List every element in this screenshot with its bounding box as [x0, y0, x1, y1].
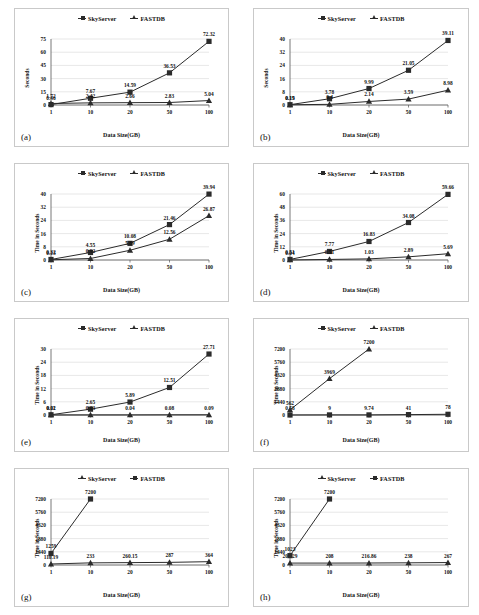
x-axis-title: Data Size(GB)	[15, 287, 228, 293]
svg-text:0: 0	[282, 257, 285, 263]
svg-text:1: 1	[50, 419, 53, 425]
figure-grid: SkyServerFASTDBSecondsData Size(GB)(a)01…	[0, 0, 479, 615]
svg-text:238: 238	[404, 553, 412, 559]
triangle-marker-icon	[78, 478, 86, 479]
svg-text:24: 24	[280, 231, 286, 237]
legend-item-skyserver: SkyServer	[318, 170, 356, 177]
svg-text:60: 60	[41, 49, 47, 55]
panel-frame: SkyServerFASTDBTime in SecondsData Size(…	[14, 468, 229, 607]
panel-frame: SkyServerFASTDBTime in SecondsData Size(…	[253, 163, 469, 302]
svg-text:48: 48	[280, 204, 286, 210]
svg-text:36: 36	[280, 217, 286, 223]
chart-legend: SkyServerFASTDB	[15, 475, 228, 482]
svg-text:50: 50	[167, 264, 173, 270]
legend-item-skyserver: SkyServer	[78, 15, 116, 22]
legend-label: FASTDB	[380, 325, 405, 332]
svg-text:1.03: 1.03	[364, 249, 374, 255]
svg-text:7200: 7200	[324, 489, 335, 495]
legend-label: SkyServer	[88, 475, 116, 482]
svg-text:260.15: 260.15	[123, 553, 138, 559]
svg-text:10: 10	[327, 109, 333, 115]
panel-frame: SkyServerFASTDBTime in SecondsData Size(…	[14, 318, 229, 452]
svg-text:50: 50	[406, 419, 412, 425]
svg-text:0: 0	[43, 102, 46, 108]
panel-tag: (b)	[260, 132, 271, 142]
chart-panel-f: SkyServerFASTDBTime in SecondsData Size(…	[239, 310, 479, 460]
legend-label: FASTDB	[380, 170, 405, 177]
panel-frame: SkyServerFASTDBTime in SecondsData Size(…	[253, 468, 469, 607]
legend-label: SkyServer	[88, 15, 116, 22]
svg-text:14.59: 14.59	[124, 82, 136, 88]
svg-text:233: 233	[86, 553, 94, 559]
svg-text:267: 267	[444, 553, 452, 559]
panel-frame: SkyServerFASTDBTime in SecondsData Size(…	[14, 163, 229, 302]
svg-text:20: 20	[366, 569, 372, 575]
svg-text:32: 32	[41, 204, 47, 210]
svg-text:5.04: 5.04	[204, 91, 214, 97]
svg-text:2.14: 2.14	[364, 91, 374, 97]
legend-label: FASTDB	[140, 475, 165, 482]
x-axis-title: Data Size(GB)	[254, 592, 468, 598]
svg-text:5760: 5760	[274, 509, 285, 515]
svg-text:20: 20	[127, 569, 133, 575]
svg-text:1: 1	[289, 264, 292, 270]
plot-area: 081624324011020501000.193.789.9921.0539.…	[256, 23, 456, 127]
legend-label: SkyServer	[328, 15, 356, 22]
svg-text:0: 0	[282, 102, 285, 108]
svg-text:1.72: 1.72	[46, 93, 56, 99]
legend-label: FASTDB	[140, 325, 165, 332]
svg-text:2.89: 2.89	[404, 247, 414, 253]
svg-text:60: 60	[280, 191, 286, 197]
chart-legend: SkyServerFASTDB	[15, 325, 228, 332]
legend-item-skyserver: SkyServer	[318, 15, 356, 22]
svg-text:40: 40	[280, 36, 286, 42]
chart-panel-c: SkyServerFASTDBTime in SecondsData Size(…	[0, 155, 239, 310]
svg-text:10: 10	[327, 569, 333, 575]
svg-text:0: 0	[43, 412, 46, 418]
svg-text:7200: 7200	[35, 496, 46, 502]
chart-legend: SkyServerFASTDB	[15, 15, 228, 22]
chart-legend: SkyServerFASTDB	[254, 15, 468, 22]
svg-text:216.86: 216.86	[362, 553, 377, 559]
square-marker-icon	[370, 478, 378, 479]
svg-text:1: 1	[289, 109, 292, 115]
svg-text:78: 78	[445, 404, 451, 410]
svg-text:36.53: 36.53	[163, 63, 175, 69]
svg-text:5760: 5760	[274, 359, 285, 365]
triangle-marker-icon	[318, 478, 326, 479]
square-marker-icon	[78, 18, 86, 19]
plot-area: 081624324011020501000.324.5510.0821.4639…	[17, 178, 217, 282]
svg-text:12.51: 12.51	[163, 377, 175, 383]
svg-text:7.77: 7.77	[325, 241, 335, 247]
legend-item-skyserver: SkyServer	[78, 475, 116, 482]
square-marker-icon	[318, 173, 326, 174]
x-axis-title: Data Size(GB)	[254, 287, 468, 293]
svg-text:2880: 2880	[274, 386, 285, 392]
svg-text:12.56: 12.56	[163, 229, 175, 235]
legend-label: SkyServer	[88, 325, 116, 332]
svg-text:45: 45	[41, 62, 47, 68]
panel-tag: (g)	[21, 592, 32, 602]
svg-text:21.05: 21.05	[402, 60, 414, 66]
svg-text:0: 0	[43, 257, 46, 263]
svg-text:1: 1	[50, 264, 53, 270]
svg-text:39.11: 39.11	[442, 30, 454, 36]
panel-tag: (h)	[260, 592, 271, 602]
svg-text:100: 100	[444, 419, 452, 425]
svg-text:100: 100	[205, 109, 213, 115]
svg-text:50: 50	[167, 109, 173, 115]
plot-area: 0153045607511020501000.467.6714.5936.537…	[17, 23, 217, 127]
x-axis-title: Data Size(GB)	[254, 437, 468, 443]
chart-panel-d: SkyServerFASTDBTime in SecondsData Size(…	[239, 155, 479, 310]
svg-text:7200: 7200	[364, 339, 375, 345]
svg-text:100: 100	[205, 419, 213, 425]
svg-text:0: 0	[43, 562, 46, 568]
legend-item-skyserver: SkyServer	[78, 170, 116, 177]
panel-frame: SkyServerFASTDBSecondsData Size(GB)(b)08…	[253, 8, 469, 147]
svg-text:9: 9	[328, 405, 331, 411]
svg-text:30: 30	[41, 76, 47, 82]
svg-text:1259: 1259	[46, 543, 57, 549]
panel-tag: (e)	[21, 437, 31, 447]
chart-legend: SkyServerFASTDB	[254, 170, 468, 177]
triangle-marker-icon	[370, 173, 378, 174]
